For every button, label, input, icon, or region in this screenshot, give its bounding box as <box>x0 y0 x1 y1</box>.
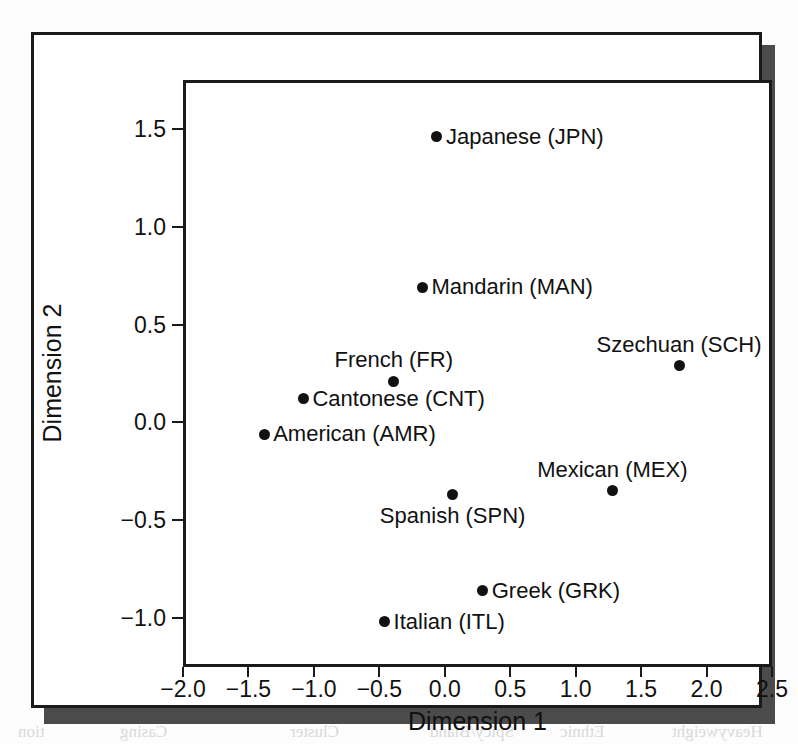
point-label-mex: Mexican (MEX) <box>537 457 687 483</box>
x-tick-label: −0.5 <box>357 676 402 703</box>
point-label-fr: French (FR) <box>334 347 453 373</box>
point-label-cnt: Cantonese (CNT) <box>312 386 484 412</box>
y-tick-label: 1.0 <box>134 213 166 240</box>
y-tick-label: 0.5 <box>134 311 166 338</box>
x-tick-label: 2.5 <box>756 676 788 703</box>
point-label-jpn: Japanese (JPN) <box>446 124 604 150</box>
y-tick-mark <box>172 421 183 423</box>
x-tick-label: 1.5 <box>625 676 657 703</box>
scatter-point-man <box>417 282 428 293</box>
point-label-itl: Italian (ITL) <box>394 609 505 635</box>
x-tick-label: −2.0 <box>160 676 205 703</box>
x-tick-label: −1.0 <box>291 676 336 703</box>
y-tick-mark <box>172 128 183 130</box>
x-tick-label: 0.5 <box>494 676 526 703</box>
point-label-sch: Szechuan (SCH) <box>597 332 762 358</box>
x-tick-label: 1.0 <box>560 676 592 703</box>
scatter-point-sch <box>674 360 685 371</box>
bleed-through-bottom-text-2: Casing <box>120 722 167 742</box>
point-label-spn: Spanish (SPN) <box>380 503 526 529</box>
y-tick-label: −1.0 <box>121 605 166 632</box>
bleed-through-top-text <box>140 0 146 20</box>
y-tick-label: −0.5 <box>121 507 166 534</box>
point-label-grk: Greek (GRK) <box>492 578 620 604</box>
page-background: Multigrain tion Casing Cluster Spicy/Bla… <box>0 0 798 744</box>
x-tick-label: −1.5 <box>226 676 271 703</box>
y-tick-label: 1.5 <box>134 115 166 142</box>
y-tick-mark <box>172 617 183 619</box>
y-axis-title: Dimension 2 <box>38 304 67 443</box>
figure-frame: −2.0−1.5−1.0−0.50.00.51.01.52.02.5 1.51.… <box>31 32 762 708</box>
bleed-through-bottom-text-1: tion <box>18 722 44 742</box>
y-tick-mark <box>172 226 183 228</box>
point-label-man: Mandarin (MAN) <box>432 274 593 300</box>
x-tick-label: 0.0 <box>429 676 461 703</box>
x-axis-title: Dimension 1 <box>183 707 772 736</box>
y-tick-label: 0.0 <box>134 409 166 436</box>
y-tick-mark <box>172 519 183 521</box>
point-label-amr: American (AMR) <box>273 421 436 447</box>
x-tick-label: 2.0 <box>691 676 723 703</box>
plot-panel <box>183 80 772 667</box>
y-tick-mark <box>172 324 183 326</box>
scatter-point-amr <box>259 429 270 440</box>
